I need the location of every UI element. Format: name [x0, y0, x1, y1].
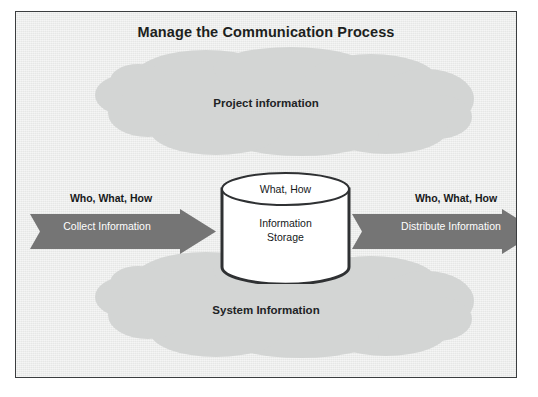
cylinder-top-label: What, How: [219, 183, 352, 195]
collect-information-arrow: Who, What, How Collect Information: [30, 192, 220, 252]
project-information-label: Project information: [16, 97, 516, 109]
diagram-root: Project information System Information M…: [0, 0, 538, 397]
distribute-information-label: Distribute Information: [356, 220, 517, 232]
information-storage-cylinder: What, How Information Storage: [219, 172, 352, 284]
system-information-label: System Information: [16, 304, 516, 316]
collect-information-label: Collect Information: [15, 220, 202, 232]
distribute-information-caption: Who, What, How: [361, 192, 517, 204]
diagram-frame: Project information System Information M…: [15, 11, 517, 378]
distribute-information-arrow: Who, What, How Distribute Information: [352, 192, 517, 252]
cylinder-body-label: Information Storage: [219, 216, 352, 244]
collect-information-caption: Who, What, How: [16, 192, 206, 204]
diagram-title: Manage the Communication Process: [16, 24, 516, 40]
